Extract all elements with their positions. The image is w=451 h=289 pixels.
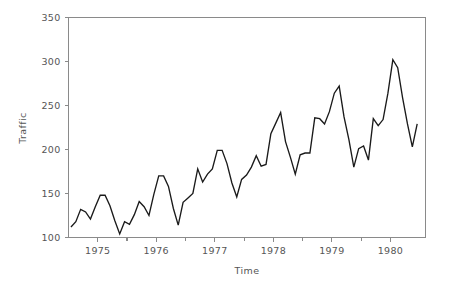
y-tick-label: 200	[41, 144, 60, 155]
chart-figure: Traffic Time 100150200250300350 19751976…	[0, 0, 451, 289]
y-tick-label: 300	[41, 56, 60, 67]
y-axis-ticks: 100150200250300350	[41, 12, 68, 243]
x-tick-label: 1977	[202, 245, 227, 256]
x-axis-label: Time	[234, 265, 260, 276]
x-axis-ticks: 197519761977197819791980	[85, 238, 403, 256]
x-tick-label: 1975	[85, 245, 110, 256]
traffic-series-line	[71, 60, 417, 234]
x-tick-label: 1980	[378, 245, 403, 256]
x-tick-label: 1978	[261, 245, 286, 256]
y-tick-label: 100	[41, 232, 60, 243]
y-axis-label: Traffic	[17, 112, 28, 145]
y-tick-label: 350	[41, 12, 60, 23]
x-tick-label: 1979	[319, 245, 344, 256]
x-tick-label: 1976	[144, 245, 169, 256]
y-tick-label: 250	[41, 100, 60, 111]
y-tick-label: 150	[41, 188, 60, 199]
traffic-time-series-chart: Traffic Time 100150200250300350 19751976…	[0, 0, 451, 289]
